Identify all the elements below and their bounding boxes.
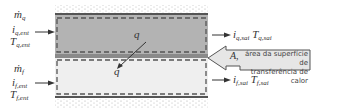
heat-label-top: q	[134, 29, 140, 40]
hot-inlet-temperature-label: Tq,ent	[10, 36, 30, 49]
cold-mass-flow-label: ṁf	[14, 63, 24, 76]
hot-outlet-label: iq,sai Tq,sai	[233, 29, 272, 42]
outer-wall-bottom	[55, 96, 208, 98]
cold-fluid-region	[55, 58, 208, 96]
hot-fluid-region	[55, 15, 208, 54]
heat-exchanger-diagram: ṁq iq,ent Tq,ent ṁf if,ent Tf,ent iq,sai…	[0, 0, 353, 110]
insulation-top	[55, 5, 208, 13]
area-callout-text: área da superfície de transferência de c…	[242, 50, 308, 69]
cold-outlet-arrow-icon	[224, 78, 231, 83]
hot-mass-flow-label: ṁq	[14, 9, 25, 22]
hot-inlet-arrow-icon	[48, 30, 55, 35]
heat-label-bottom: q	[114, 66, 120, 77]
insulation-bottom	[55, 99, 208, 108]
outer-wall-top	[55, 13, 208, 15]
cold-inlet-arrow-icon	[48, 81, 55, 86]
cold-inlet-temperature-label: Tf,ent	[10, 89, 28, 102]
hot-outlet-arrow-icon	[224, 33, 231, 38]
area-callout-line2: transferência de calor	[242, 68, 308, 86]
area-symbol: A,	[230, 51, 239, 61]
area-callout-line1: área da superfície de	[242, 50, 308, 68]
